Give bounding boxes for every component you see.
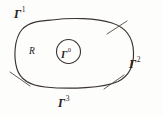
inner-boundary-label: Γ0 — [61, 45, 71, 61]
gamma-glyph-right: Γ — [129, 57, 136, 71]
tick-mark-lower-left — [10, 72, 30, 86]
gamma-superscript-top: 1 — [22, 5, 26, 14]
gamma-superscript-inner: 0 — [68, 46, 71, 53]
gamma-glyph-inner: Γ — [61, 49, 67, 60]
region-interior-label: R — [29, 47, 35, 57]
gamma-superscript-bottom: 3 — [66, 94, 70, 103]
tick-mark-lower-right — [104, 75, 124, 89]
gamma-glyph-top: Γ — [14, 7, 21, 21]
outer-boundary-label-right: Γ2 — [129, 55, 141, 71]
gamma-superscript-right: 2 — [137, 55, 141, 64]
outer-boundary-label-top: Γ1 — [14, 5, 26, 21]
outer-boundary-label-bottom: Γ3 — [58, 94, 70, 110]
figure-container: Γ1 Γ2 Γ3 Γ0 R — [0, 0, 163, 116]
gamma-glyph-bottom: Γ — [58, 96, 65, 110]
